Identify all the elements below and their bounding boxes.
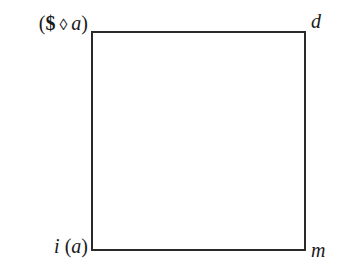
lacan-square-diagram: ($◊a) d i (a) m [0,0,344,275]
object-a-variable: a [71,12,81,34]
corner-label-bottom-right: m [311,240,325,260]
close-paren: ) [81,12,88,34]
corner-label-top-right: d [311,11,321,31]
close-paren: ) [81,235,88,257]
square-frame [91,31,306,251]
function-i: i [54,235,60,257]
lozenge-symbol: ◊ [59,16,67,33]
variable-a: a [71,235,81,257]
barred-subject-symbol: $ [45,12,55,34]
corner-label-bottom-left: i (a) [54,236,88,256]
corner-label-top-left: ($◊a) [39,13,88,35]
